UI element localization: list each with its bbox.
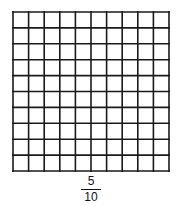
- fraction-numerator: 5: [76, 175, 106, 187]
- grid-lines: [12, 11, 170, 172]
- fraction-label: 5 10: [76, 175, 106, 203]
- hundred-grid: [12, 11, 170, 172]
- fraction-denominator: 10: [76, 191, 106, 203]
